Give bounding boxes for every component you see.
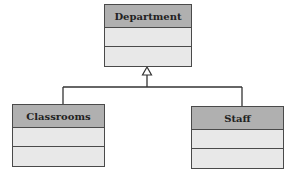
methods-section <box>105 47 191 66</box>
class-name: Department <box>105 5 191 28</box>
class-name: Classrooms <box>13 105 104 128</box>
attributes-section <box>13 128 104 147</box>
attributes-section <box>105 28 191 47</box>
methods-section <box>13 147 104 166</box>
methods-section <box>192 149 283 168</box>
generalization-arrow-icon <box>143 67 152 75</box>
attributes-section <box>192 130 283 149</box>
class-name: Staff <box>192 107 283 130</box>
class-staff[interactable]: Staff <box>191 106 284 169</box>
class-classrooms[interactable]: Classrooms <box>12 104 105 167</box>
class-department[interactable]: Department <box>104 4 192 67</box>
